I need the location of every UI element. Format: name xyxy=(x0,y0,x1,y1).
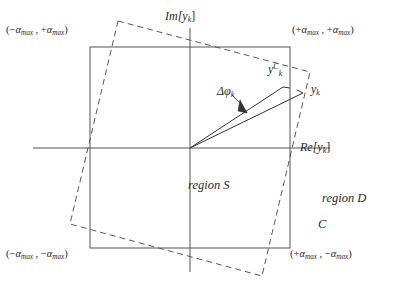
complex-plane-diagram: (−αmax , +αmax) (+αmax , +αmax) (−αmax ,… xyxy=(0,0,397,285)
corner-bl-sub1: max xyxy=(21,253,33,261)
dphi-sub: k xyxy=(231,90,235,99)
corner-label-bottom-left: (−αmax , −αmax) xyxy=(6,249,68,261)
im-axis-text: Im[y xyxy=(165,9,188,23)
corner-label-bottom-right: (+αmax , −αmax) xyxy=(290,249,352,261)
vector-yk-clipped-endcap xyxy=(283,87,290,88)
vector-yk-line xyxy=(190,93,303,148)
corner-tr-sub1: max xyxy=(307,29,319,37)
region-s-symbol: S xyxy=(223,178,229,192)
vector-label-yk-clipped: yCk xyxy=(268,63,282,78)
vector-yk-endcap xyxy=(297,90,303,93)
ykc-sub: k xyxy=(279,69,283,78)
region-d-word: region xyxy=(322,191,357,205)
corner-tl-mid: , + xyxy=(33,24,47,35)
corner-tr-sub2: max xyxy=(338,29,350,37)
curve-label-c: C xyxy=(318,218,326,231)
corner-tr-open: (+ xyxy=(292,24,301,35)
imaginary-axis-label: Im[yk] xyxy=(165,10,195,24)
diagram-canvas xyxy=(0,0,397,285)
corner-tl-sub1: max xyxy=(21,29,33,37)
angle-label-delta-phi: Δφk xyxy=(217,85,234,99)
corner-br-sub1: max xyxy=(305,253,317,261)
im-axis-close: ] xyxy=(191,9,195,23)
re-axis-text: Re[y xyxy=(300,140,323,154)
region-label-d: region D xyxy=(322,192,366,205)
corner-label-top-right: (+αmax , +αmax) xyxy=(292,25,354,37)
re-axis-close: ] xyxy=(326,140,330,154)
corner-tl-close: ) xyxy=(64,24,68,35)
region-label-s: region S xyxy=(188,179,230,192)
real-axis-label: Re[yk] xyxy=(300,141,330,155)
vector-label-yk: yk xyxy=(311,83,320,97)
corner-br-close: ) xyxy=(348,248,352,259)
corner-bl-open: (− xyxy=(6,248,15,259)
corner-tr-close: ) xyxy=(350,24,354,35)
corner-bl-sub2: max xyxy=(52,253,64,261)
dphi-base: Δφ xyxy=(217,84,231,98)
corner-label-top-left: (−αmax , +αmax) xyxy=(6,25,68,37)
vector-yk-clipped-line xyxy=(190,87,283,148)
corner-br-mid: , − xyxy=(317,248,331,259)
region-s-word: region xyxy=(188,178,223,192)
yk-sub: k xyxy=(316,88,320,97)
corner-bl-close: ) xyxy=(64,248,68,259)
corner-br-sub2: max xyxy=(336,253,348,261)
corner-tl-open: (− xyxy=(6,24,15,35)
corner-bl-mid: , − xyxy=(33,248,47,259)
region-d-symbol: D xyxy=(357,191,366,205)
corner-br-open: (+ xyxy=(290,248,299,259)
corner-tr-mid: , + xyxy=(319,24,333,35)
corner-tl-sub2: max xyxy=(52,29,64,37)
